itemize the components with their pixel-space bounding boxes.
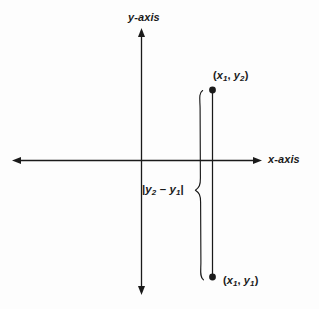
lower-point-label: (x1, y1) xyxy=(223,275,258,286)
y-subscript: 2 xyxy=(240,74,245,83)
x-axis-label: x-axis xyxy=(268,154,300,165)
y-axis-label: y-axis xyxy=(128,12,160,23)
y1-var: y xyxy=(169,183,176,195)
x-subscript: 1 xyxy=(233,279,238,288)
upper-point-label: (x1, y2) xyxy=(213,70,248,81)
abs-bar-close: | xyxy=(181,183,184,195)
upper-point-marker xyxy=(209,87,216,94)
coordinate-plane-figure: y-axis x-axis (x1, y2) (x1, y1) |y2 – y1… xyxy=(0,0,319,309)
distance-brace-icon xyxy=(195,91,203,280)
x-subscript: 1 xyxy=(223,74,228,83)
paren-close: ) xyxy=(255,274,259,286)
paren-close: ) xyxy=(245,69,249,81)
y1-subscript: 1 xyxy=(176,188,181,197)
y-axis-label-text: y-axis xyxy=(128,11,160,23)
minus-operator: – xyxy=(156,183,169,195)
y-axis xyxy=(138,28,145,295)
x-axis-arrow-right-icon xyxy=(253,157,262,164)
x-axis-arrow-left-icon xyxy=(12,157,21,164)
x-axis xyxy=(12,157,262,164)
y-axis-arrow-up-icon xyxy=(138,28,145,37)
lower-point-marker xyxy=(209,274,216,281)
x-axis-label-text: x-axis xyxy=(268,153,300,165)
y2-var: y xyxy=(145,183,152,195)
distance-label: |y2 – y1| xyxy=(142,184,184,196)
y-subscript: 1 xyxy=(250,279,255,288)
y2-subscript: 2 xyxy=(152,188,157,197)
y-axis-arrow-down-icon xyxy=(138,286,145,295)
